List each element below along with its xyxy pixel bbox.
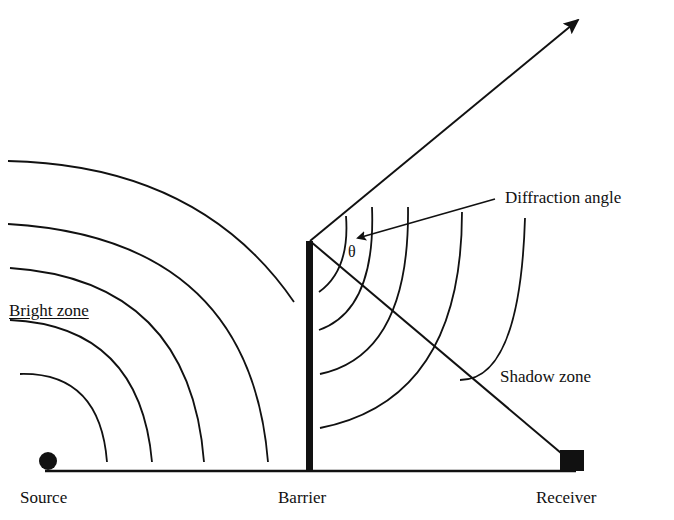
diffracted-wave-arcs	[319, 207, 525, 428]
diffraction-diagram	[0, 0, 674, 520]
diffracted-ray-arrow	[310, 20, 578, 241]
incident-arc-4	[8, 224, 268, 462]
incident-arc-2	[10, 320, 152, 462]
barrier	[306, 241, 313, 472]
source-icon	[39, 452, 57, 470]
bright-zone-label: Bright zone	[9, 302, 89, 319]
diffraction-angle-label: Diffraction angle	[505, 189, 621, 206]
receiver-label: Receiver	[536, 489, 596, 506]
diffracted-arc-5	[460, 218, 525, 380]
source-label: Source	[20, 489, 67, 506]
receiver-icon	[560, 450, 584, 471]
barrier-label: Barrier	[278, 489, 326, 506]
shadow-zone-label: Shadow zone	[500, 368, 591, 385]
diffracted-arc-1	[319, 216, 346, 292]
incident-arc-5	[8, 161, 294, 302]
diffraction-angle-pointer	[358, 199, 495, 238]
incident-arc-3	[10, 268, 204, 462]
incident-arc-1	[20, 374, 107, 462]
theta-symbol: θ	[348, 244, 356, 260]
diffracted-arc-3	[320, 207, 408, 374]
diffracted-arc-4	[320, 212, 462, 428]
